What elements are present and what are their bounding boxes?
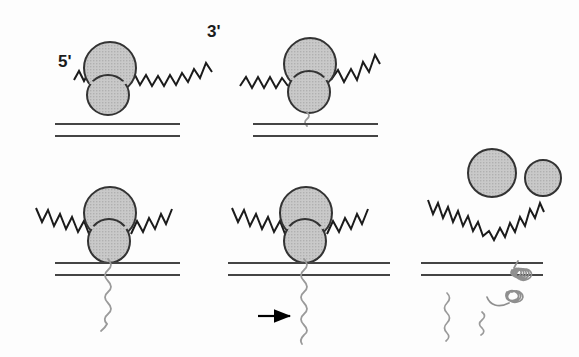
panel-1-ribosome-mrna-binding (55, 42, 212, 136)
translocating-polypeptide-panel-4 (301, 259, 307, 344)
panel-2-signal-peptide-emerging (240, 38, 380, 136)
figure-root: 5' 3' (0, 0, 579, 357)
label-three-prime: 3' (207, 22, 221, 42)
translocating-polypeptide-panel-3 (101, 259, 111, 331)
dissociated-subunits (468, 149, 561, 197)
membrane-panel-1 (55, 124, 180, 136)
panel-3-chain-translocating (36, 187, 180, 331)
peptide-fragment-right (480, 312, 485, 335)
small-subunit (525, 160, 561, 196)
panel-5-termination-and-folding (421, 149, 561, 341)
ribosome-panel-1 (84, 42, 136, 115)
peptide-fragments (445, 293, 485, 341)
ribosome-panel-2 (284, 38, 336, 113)
panel-4-chain-elongating (228, 187, 390, 344)
peptide-fragment-left (445, 293, 450, 341)
membrane-panel-4 (228, 263, 390, 275)
ribosome-panel-4 (280, 187, 332, 263)
large-subunit (468, 149, 516, 197)
ribosome-panel-3 (84, 187, 136, 263)
membrane-panel-2 (253, 124, 378, 136)
released-mrna-panel-5 (428, 200, 544, 240)
membrane-panel-3 (55, 263, 180, 275)
folded-protein-helix (487, 261, 532, 306)
translocation-diagram (0, 0, 579, 357)
label-five-prime: 5' (58, 52, 72, 72)
